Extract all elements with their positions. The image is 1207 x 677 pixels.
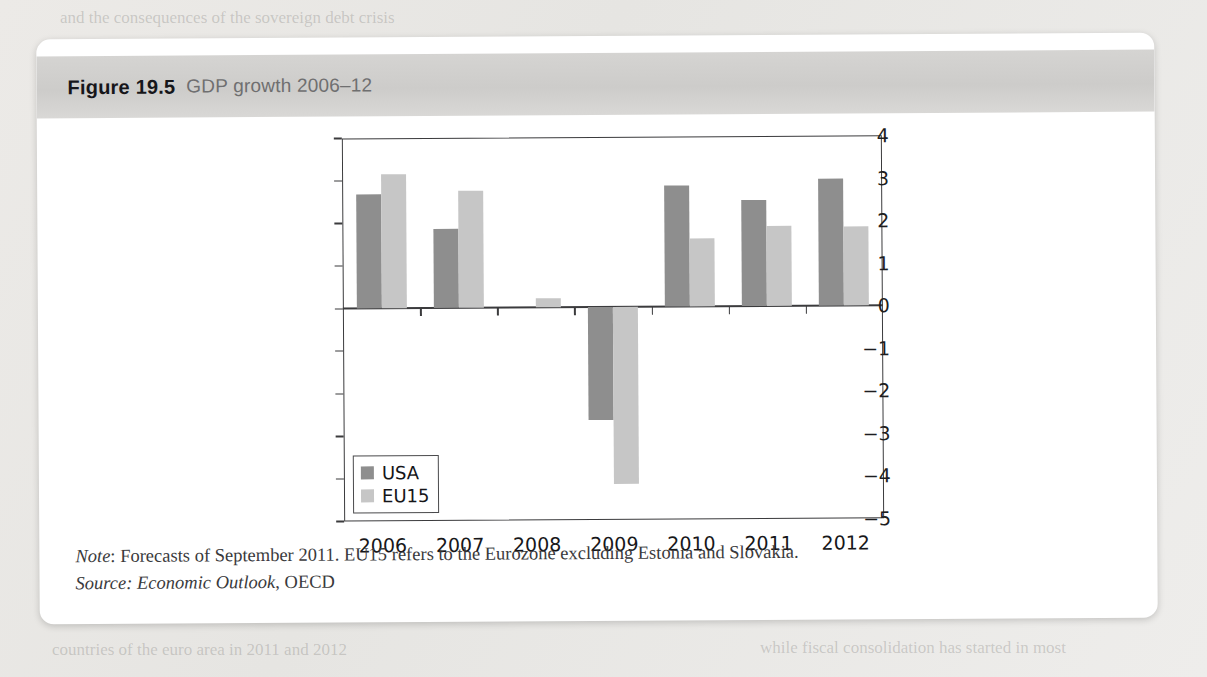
y-axis-tick-label: −5	[847, 507, 891, 529]
y-axis-tick-label: −2	[846, 380, 890, 402]
legend-label-eu15: EU15	[382, 485, 430, 506]
bar-usa-2012	[819, 179, 845, 306]
legend-item-usa: USA	[361, 461, 430, 484]
bar-eu15-2006	[381, 174, 407, 308]
figure-number: Figure 19.5	[67, 75, 175, 99]
y-axis-tick-mark	[336, 436, 344, 437]
note-text: : Forecasts of September 2011. EU15 refe…	[110, 541, 798, 565]
figure-caption: GDP growth 2006–12	[186, 74, 372, 97]
legend-swatch-usa-icon	[361, 466, 374, 479]
y-axis-tick-mark	[334, 138, 342, 139]
chart-legend: USA EU15	[353, 455, 440, 514]
legend-swatch-eu15-icon	[361, 489, 374, 502]
legend-label-usa: USA	[382, 462, 419, 483]
y-axis-tick-label: 3	[845, 167, 889, 189]
bar-usa-2007	[433, 228, 458, 308]
source-label: Source	[75, 573, 126, 593]
y-axis-tick-mark	[336, 478, 344, 479]
bar-eu15-2008	[536, 298, 561, 308]
bar-eu15-2010	[690, 238, 715, 306]
bar-eu15-2011	[767, 226, 792, 306]
x-axis-tick-mark	[420, 308, 421, 316]
x-axis-tick-mark	[729, 306, 730, 314]
x-axis-tick-mark	[497, 308, 498, 316]
y-axis-tick-mark	[335, 393, 343, 394]
legend-item-eu15: EU15	[361, 484, 430, 507]
note-label: Note	[75, 545, 110, 565]
bar-usa-2011	[741, 200, 767, 307]
y-axis-tick-mark	[335, 351, 343, 352]
bar-eu15-2007	[458, 191, 484, 308]
y-axis: 43210−1−2−3−4−5	[289, 126, 889, 130]
bar-usa-2009	[588, 307, 614, 420]
figure-footnotes: Note: Forecasts of September 2011. EU15 …	[75, 536, 1127, 598]
y-axis-tick-label: −4	[847, 465, 891, 487]
y-axis-tick-mark	[335, 266, 343, 267]
source-text-italic: : Economic Outlook	[126, 572, 275, 593]
y-axis-tick-label: 4	[845, 124, 889, 146]
y-axis-tick-mark	[335, 308, 343, 309]
source-line: Source: Economic Outlook, OECD	[75, 564, 1127, 598]
y-axis-tick-mark	[334, 223, 342, 224]
y-axis-tick-mark	[336, 521, 344, 522]
y-axis-tick-mark	[334, 180, 342, 181]
bar-usa-2006	[356, 194, 382, 308]
x-axis-tick-mark	[651, 307, 652, 315]
bar-series-layer	[289, 126, 889, 130]
figure-header-band: Figure 19.5 GDP growth 2006–12	[36, 50, 1154, 119]
bar-eu15-2012	[844, 227, 869, 306]
chart-container: 43210−1−2−3−4−5 200620072008200920102011…	[289, 126, 892, 550]
source-text-plain: , OECD	[275, 572, 335, 592]
bar-eu15-2009	[613, 307, 639, 484]
y-axis-tick-label: −1	[846, 337, 890, 359]
x-axis-tick-mark	[806, 306, 807, 314]
y-axis-tick-label: −3	[847, 422, 891, 444]
figure-card: Figure 19.5 GDP growth 2006–12 43210−1−2…	[36, 33, 1158, 625]
bar-usa-2010	[664, 185, 690, 307]
x-axis-tick-mark	[574, 307, 575, 315]
x-axis: 2006200720082009201020112012	[289, 126, 889, 130]
